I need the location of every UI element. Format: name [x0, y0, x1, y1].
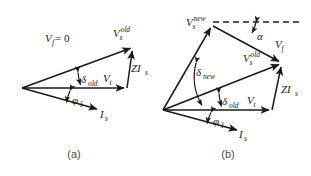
- panel-b-vector-zis: [272, 67, 281, 110]
- panel-a-label-vt: V t: [103, 72, 113, 87]
- panel-b-label-phi1-sub: 1: [221, 121, 225, 130]
- panel-a-label-is: I s: [99, 108, 108, 123]
- panel-a-label-delta-old-sym: δ: [81, 73, 87, 85]
- panel-b-vector-is: [163, 110, 237, 130]
- panel-b-label-zis-z: ZI: [281, 83, 292, 95]
- phasor-diagram-figure: V f = 0 V s old ZI s V t I s δ old: [0, 0, 311, 176]
- panel-b-label-vs-old-sub: s: [250, 58, 253, 67]
- panel-b-angle-arc-alpha: [252, 23, 256, 34]
- panel-b-label-vs-old-sup: old: [251, 50, 261, 59]
- panel-b-label-vs-new-sub: s: [193, 22, 196, 31]
- panel-b-label-phi1: φ 1: [213, 115, 224, 130]
- panel-b-label-alpha: α: [257, 30, 263, 42]
- panel-a-label-vs-old-sup: old: [121, 25, 131, 34]
- panel-a-label-phi1: φ 1: [72, 94, 83, 109]
- panel-b-label-delta-old-sub: old: [229, 101, 239, 110]
- panel-a-label-phi1-sym: φ: [72, 94, 78, 106]
- panel-b-label-vs-new: V s new: [186, 14, 206, 32]
- panel-b-label-vt: V t: [247, 94, 257, 109]
- panel-a-vector-vs-old: [22, 48, 131, 88]
- panel-b-label-vs-old: V s old: [243, 50, 260, 68]
- panel-a-label-zis-sub: s: [145, 68, 148, 77]
- panel-b-label-vs-new-sup: new: [194, 14, 206, 23]
- panel-a-label-zis: ZI s: [131, 62, 148, 77]
- panel-b-label-delta-new-sym: δ: [196, 66, 202, 78]
- panel-b-label-phi1-sym: φ: [213, 115, 219, 127]
- panel-b-caption: (b): [221, 148, 234, 160]
- panel-b-label-vf: V f: [275, 38, 285, 53]
- panel-a-label-vt-sub: t: [110, 78, 113, 87]
- panel-b-label-is: I s: [238, 128, 247, 143]
- panel-b-label-delta-new-sub: new: [203, 72, 215, 81]
- panel-b-label-vt-sub: t: [254, 100, 257, 109]
- panel-b-label-delta-old-sym: δ: [222, 95, 228, 107]
- panel-a-label-delta-old-sub: old: [88, 79, 98, 88]
- panel-a-label-vf-zero: V f = 0: [45, 32, 70, 47]
- panel-a-label-delta-old: δ old: [81, 73, 98, 88]
- panel-a-label-phi1-sub: 1: [80, 100, 84, 109]
- panel-b-vector-vs-new: [163, 28, 211, 110]
- panel-a-label-vs-old: V s old: [113, 25, 130, 43]
- panel-a: V f = 0 V s old ZI s V t I s δ old: [22, 25, 148, 161]
- panel-b-label-vf-sub: f: [282, 44, 285, 53]
- panel-a-label-vs-old-sub: s: [120, 33, 123, 42]
- panel-a-caption: (a): [67, 148, 80, 160]
- panel-a-label-vf-zero-eq: = 0: [55, 32, 70, 44]
- panel-a-vector-is: [22, 88, 97, 109]
- panel-b-label-zis: ZI s: [281, 83, 298, 98]
- panel-b-label-delta-old: δ old: [222, 95, 239, 110]
- panel-a-label-is-sub: s: [105, 114, 108, 123]
- panel-a-label-zis-z: ZI: [131, 62, 142, 74]
- panel-b-label-zis-sub: s: [295, 89, 298, 98]
- panel-b: V s new α V f V s old ZI s V t I: [163, 14, 303, 161]
- panel-b-label-is-sub: s: [244, 134, 247, 143]
- panel-b-label-delta-new: δ new: [196, 66, 215, 81]
